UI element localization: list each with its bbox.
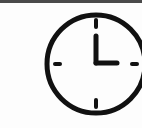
clock-icon <box>0 0 142 128</box>
